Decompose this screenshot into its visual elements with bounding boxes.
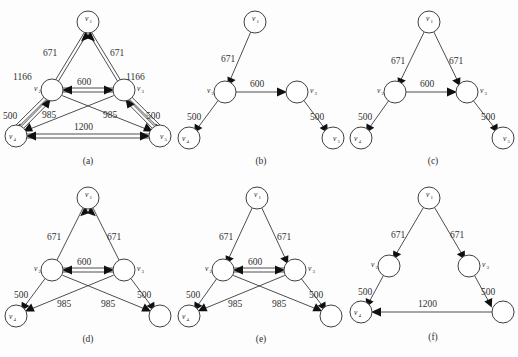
edge-weight-500-right-a: 500 [146, 111, 161, 121]
node-v2-c[interactable] [384, 81, 406, 103]
edge-weight-1200-f: 1200 [418, 299, 437, 309]
edge-weight-600-d: 600 [77, 257, 92, 267]
panel-caption-f: (f) [428, 332, 438, 343]
edge-weight-600-b: 600 [250, 79, 265, 89]
panel-d: v 1 v 2 v 3 v 4 671 671 600 500 500 985 … [0, 178, 173, 356]
node-label-v2-e: v [205, 264, 209, 273]
node-v2-b[interactable] [214, 81, 236, 103]
node-label-v2-a: v [34, 84, 38, 93]
edge-weight-985-left-a: 985 [42, 110, 57, 120]
edge-weight-600-a: 600 [77, 77, 92, 87]
panel-caption-b: (b) [255, 156, 266, 167]
node-label-v3-b: v [310, 86, 314, 95]
edge-weight-500-left-d: 500 [14, 290, 29, 300]
panel-e: v 1 v 2 v 3 v 4 671 671 600 500 500 985 … [173, 178, 346, 356]
edge-weight-1200-a: 1200 [74, 122, 93, 132]
node-v5-d[interactable] [149, 305, 171, 327]
edge-weight-985-left-e: 985 [228, 299, 243, 309]
edge-weight-985-left-d: 985 [57, 299, 72, 309]
edge-weight-671-right-c: 671 [449, 56, 464, 66]
edge-weight-600-e: 600 [248, 257, 263, 267]
node-v3-a[interactable] [113, 79, 135, 101]
edge-weight-985-right-a: 985 [103, 110, 118, 120]
edge-weight-671-right-a: 671 [110, 48, 125, 58]
node-sublabel-v3-a: 3 [142, 89, 145, 94]
node-v3-f[interactable] [458, 255, 480, 277]
node-v3-b[interactable] [286, 81, 308, 103]
edge-weight-671-left-a: 671 [43, 48, 58, 58]
panel-b: v 1 v 2 v 3 v 4 v 5 671 600 500 500 (b) [173, 0, 346, 178]
node-v3-c[interactable] [456, 81, 478, 103]
node-v2-f[interactable] [378, 255, 400, 277]
node-label-v2-f: v [371, 260, 375, 269]
edge-weight-1166-left-a: 1166 [13, 72, 32, 82]
edge-weight-985-right-d: 985 [101, 299, 116, 309]
edge-weight-500-right-d: 500 [137, 290, 152, 300]
node-label-v3-e: v [308, 264, 312, 273]
panel-c: v 1 v 2 v 3 v 4 v 5 671 671 600 500 500 … [345, 0, 518, 178]
node-label-v3-a: v [137, 84, 141, 93]
node-sublabel-v3-c: 3 [485, 91, 488, 96]
edge-weight-500-right-c: 500 [481, 112, 496, 122]
edge-weight-671-left-e: 671 [219, 232, 234, 242]
node-v3-e[interactable] [284, 259, 306, 281]
node-v3-d[interactable] [113, 259, 135, 281]
panel-a: v 1 v 2 v 3 v 4 v 5 671 671 1166 1166 60… [0, 0, 173, 178]
node-sublabel-v3-f: 3 [487, 265, 490, 270]
panel-caption-d: (d) [82, 334, 93, 345]
edge-weight-500-left-e: 500 [186, 290, 201, 300]
node-label-v2-d: v [34, 264, 38, 273]
node-label-v2-b: v [207, 86, 211, 95]
edge-weight-671-b: 671 [221, 54, 236, 64]
node-v5-e[interactable] [320, 305, 342, 327]
edge-weight-500-left-b: 500 [187, 112, 202, 122]
node-label-v2-c: v [377, 86, 381, 95]
edge-671-left-a2 [58, 34, 87, 81]
edge-weight-1166-right-a: 1166 [126, 72, 145, 82]
node-labels-d: v 1 v 2 v 3 v 4 [9, 190, 145, 322]
node-v2-e[interactable] [212, 259, 234, 281]
node-v2-a[interactable] [41, 79, 63, 101]
figure-root: v 1 v 2 v 3 v 4 v 5 671 671 1166 1166 60… [0, 0, 518, 357]
node-v5-f[interactable] [492, 301, 514, 323]
node-sublabel-v3-b: 3 [315, 91, 318, 96]
edge-weight-500-left-c: 500 [358, 112, 373, 122]
edge-weight-500-left-f: 500 [358, 287, 373, 297]
edge-weight-500-right-f: 500 [481, 287, 496, 297]
edge-weight-500-right-b: 500 [310, 112, 325, 122]
node-v2-d[interactable] [41, 259, 63, 281]
panel-caption-a: (a) [83, 156, 94, 167]
edge-weight-671-left-c: 671 [391, 56, 406, 66]
edge-weight-600-c: 600 [420, 79, 435, 89]
edge-weight-500-left-a: 500 [3, 111, 18, 121]
edge-671-left-a1 [56, 33, 85, 80]
node-labels-e: v 1 v 2 v 3 v 4 [182, 190, 316, 322]
edge-weight-671-right-d: 671 [107, 232, 122, 242]
edge-weight-985-right-e: 985 [272, 299, 287, 309]
node-label-v3-f: v [482, 260, 486, 269]
panel-f: v 1 v 2 v 3 v 4 671 671 500 500 1200 (f) [345, 178, 518, 356]
edge-weight-671-left-d: 671 [47, 232, 62, 242]
edge-weight-671-left-f: 671 [391, 230, 406, 240]
edge-weight-500-right-e: 500 [309, 290, 324, 300]
node-sublabel-v3-d: 3 [142, 269, 145, 274]
edge-weight-671-right-e: 671 [277, 232, 292, 242]
node-label-v3-d: v [137, 264, 141, 273]
panel-caption-e: (e) [256, 334, 267, 345]
node-sublabel-v3-e: 3 [313, 269, 316, 274]
panel-caption-c: (c) [428, 156, 439, 167]
node-label-v3-c: v [480, 86, 484, 95]
arrowhead-500-right-f [484, 298, 492, 307]
edge-weight-671-right-f: 671 [450, 230, 465, 240]
